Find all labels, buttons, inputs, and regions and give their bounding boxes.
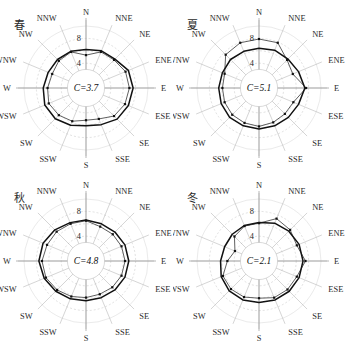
svg-text:WSW: WSW	[173, 112, 190, 121]
center-label-autumn: C=4.8	[74, 256, 99, 266]
svg-text:SSW: SSW	[39, 155, 56, 164]
svg-text:NNW: NNW	[37, 187, 57, 196]
svg-text:NNW: NNW	[37, 14, 57, 23]
svg-text:SE: SE	[139, 139, 149, 148]
svg-text:ESE: ESE	[328, 285, 343, 294]
svg-text:SSW: SSW	[212, 155, 229, 164]
svg-text:W: W	[3, 84, 11, 93]
svg-text:NNW: NNW	[210, 187, 230, 196]
svg-text:E: E	[334, 84, 339, 93]
svg-text:8: 8	[77, 207, 81, 216]
svg-text:4: 4	[250, 232, 255, 241]
svg-text:ENE: ENE	[328, 56, 344, 65]
svg-text:S: S	[84, 334, 89, 343]
svg-text:W: W	[3, 257, 11, 266]
svg-text:NW: NW	[192, 30, 206, 39]
svg-text:SW: SW	[193, 312, 206, 321]
svg-text:SSE: SSE	[288, 155, 302, 164]
center-label-winter: C=2.1	[247, 256, 272, 266]
panel-summer: 夏 48NNNENEENEEESESESSESSSWSWWSWWWNWNWNNW…	[173, 0, 345, 172]
svg-text:N: N	[256, 8, 262, 17]
svg-text:NNE: NNE	[288, 187, 305, 196]
svg-text:NNW: NNW	[210, 14, 230, 23]
svg-text:SW: SW	[20, 312, 33, 321]
svg-text:NNE: NNE	[115, 14, 132, 23]
svg-text:SW: SW	[20, 139, 33, 148]
svg-text:ENE: ENE	[155, 229, 171, 238]
svg-text:WSW: WSW	[0, 112, 17, 121]
svg-text:NE: NE	[139, 30, 150, 39]
svg-text:4: 4	[250, 59, 255, 68]
svg-text:8: 8	[77, 34, 81, 43]
svg-text:SSW: SSW	[39, 328, 56, 337]
svg-text:SE: SE	[139, 312, 149, 321]
panel-winter: 冬 48NNNENEENEEESESESSESSSWSWWSWWWNWNWNNW…	[173, 173, 345, 345]
svg-text:SSW: SSW	[212, 328, 229, 337]
svg-text:E: E	[161, 84, 166, 93]
svg-text:NW: NW	[192, 203, 206, 212]
svg-text:SE: SE	[312, 312, 322, 321]
svg-text:NNE: NNE	[115, 187, 132, 196]
wind-rose-figure: 春 48NNNENEENEEESESESSESSSWSWWSWWWNWNWNNW…	[0, 0, 345, 345]
svg-text:NNE: NNE	[288, 14, 305, 23]
svg-text:4: 4	[77, 59, 82, 68]
svg-text:WNW: WNW	[0, 56, 17, 65]
svg-text:NE: NE	[139, 203, 150, 212]
svg-text:8: 8	[250, 207, 254, 216]
svg-text:4: 4	[77, 232, 82, 241]
svg-text:E: E	[161, 257, 166, 266]
svg-text:ENE: ENE	[155, 56, 171, 65]
svg-text:N: N	[83, 181, 89, 190]
svg-text:SSE: SSE	[115, 328, 129, 337]
svg-text:S: S	[257, 161, 262, 170]
svg-text:ENE: ENE	[328, 229, 344, 238]
svg-text:S: S	[84, 161, 89, 170]
center-label-summer: C=5.1	[247, 83, 272, 93]
svg-text:S: S	[257, 334, 262, 343]
svg-text:SSE: SSE	[115, 155, 129, 164]
panel-autumn: 秋 48NNNENEENEEESESESSESSSWSWWSWWWNWNWNNW…	[0, 173, 172, 345]
svg-text:ESE: ESE	[328, 112, 343, 121]
svg-text:SW: SW	[193, 139, 206, 148]
svg-text:E: E	[334, 257, 339, 266]
svg-text:SE: SE	[312, 139, 322, 148]
svg-text:ESE: ESE	[155, 285, 170, 294]
svg-text:WNW: WNW	[173, 229, 190, 238]
svg-text:8: 8	[250, 34, 254, 43]
svg-text:N: N	[83, 8, 89, 17]
svg-text:WSW: WSW	[0, 285, 17, 294]
svg-text:NW: NW	[19, 30, 33, 39]
svg-text:WNW: WNW	[0, 229, 17, 238]
svg-text:ESE: ESE	[155, 112, 170, 121]
svg-text:SSE: SSE	[288, 328, 302, 337]
svg-text:WNW: WNW	[173, 56, 190, 65]
svg-text:W: W	[176, 257, 184, 266]
panel-spring: 春 48NNNENEENEEESESESSESSSWSWWSWWWNWNWNNW…	[0, 0, 172, 172]
svg-text:WSW: WSW	[173, 285, 190, 294]
svg-text:NE: NE	[312, 30, 323, 39]
center-label-spring: C=3.7	[74, 83, 99, 93]
svg-text:NE: NE	[312, 203, 323, 212]
svg-text:NW: NW	[19, 203, 33, 212]
svg-text:W: W	[176, 84, 184, 93]
svg-text:N: N	[256, 181, 262, 190]
